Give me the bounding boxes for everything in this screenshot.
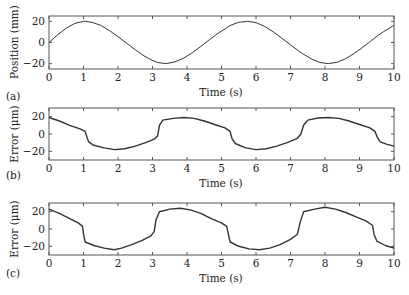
plot-area-a: 012345678910−20020 [23,15,401,83]
panel-a: Position (mm) 012345678910−20020 Time (s… [6,5,401,102]
x-axis-label-b: Time (s) [199,177,242,189]
x-tick-label: 0 [46,71,53,83]
x-tick-label: 7 [287,257,294,269]
x-tick-label: 5 [218,71,225,83]
x-tick-label: 6 [253,257,260,269]
axes-frame [49,16,394,69]
x-tick-label: 8 [322,162,329,174]
y-tick-label: 0 [38,223,45,235]
x-tick-label: 8 [322,257,329,269]
y-axis-label-b: Error (μm) [8,105,20,162]
y-tick-label: 0 [38,128,45,140]
y-axis-label-a: Position (mm) [8,5,20,79]
series-line-position [49,21,394,63]
x-tick-label: 10 [387,257,400,269]
x-tick-label: 3 [149,257,156,269]
panel-label-c: (c) [6,267,20,279]
x-tick-label: 9 [356,257,363,269]
series-line-error [49,118,394,150]
x-tick-label: 6 [253,162,260,174]
x-tick-label: 9 [356,162,363,174]
y-axis-label-c: Error (μm) [8,200,20,257]
panel-label-a: (a) [6,90,20,102]
y-tick-label: −20 [23,57,45,69]
x-axis-label-a: Time (s) [199,86,242,98]
x-tick-label: 10 [387,162,400,174]
x-tick-label: 7 [287,71,294,83]
x-tick-label: 1 [80,162,87,174]
x-tick-label: 0 [46,257,53,269]
y-tick-label: 20 [32,205,45,217]
x-tick-label: 10 [387,71,400,83]
x-tick-label: 5 [218,162,225,174]
x-tick-label: 5 [218,257,225,269]
panel-c: Error (μm) 012345678910−20020 Time (s) (… [6,200,401,284]
panel-b: Error (μm) 012345678910−20020 Time (s) (… [6,105,401,189]
y-tick-label: 20 [32,15,45,27]
x-tick-label: 1 [80,257,87,269]
x-tick-label: 4 [184,71,191,83]
x-tick-label: 2 [115,162,122,174]
axes-frame [49,108,394,160]
x-tick-label: 0 [46,162,53,174]
x-tick-label: 2 [115,71,122,83]
x-tick-label: 7 [287,162,294,174]
plot-area-b: 012345678910−20020 [23,108,401,174]
x-tick-label: 6 [253,71,260,83]
x-tick-label: 4 [184,257,191,269]
x-axis-label-c: Time (s) [199,272,242,284]
x-tick-label: 1 [80,71,87,83]
x-tick-label: 2 [115,257,122,269]
x-tick-label: 4 [184,162,191,174]
y-tick-label: −20 [23,145,45,157]
x-tick-label: 3 [149,71,156,83]
y-tick-label: 0 [38,36,45,48]
plot-area-c: 012345678910−20020 [23,203,401,269]
panel-label-b: (b) [6,169,21,181]
figure: Position (mm) 012345678910−20020 Time (s… [0,0,409,295]
y-tick-label: −20 [23,240,45,252]
series-line-error [49,207,394,250]
x-tick-label: 9 [356,71,363,83]
x-tick-label: 3 [149,162,156,174]
x-tick-label: 8 [322,71,329,83]
y-tick-label: 20 [32,110,45,122]
